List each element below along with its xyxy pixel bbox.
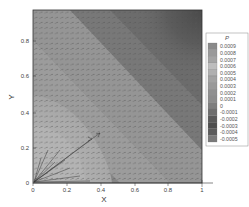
x-axis-label: X: [101, 195, 107, 204]
legend-label: 0.0006: [220, 63, 236, 69]
legend-swatch: [208, 83, 217, 90]
y-tick-0.4: 0.4: [21, 110, 30, 116]
legend-label: -0.0004: [220, 129, 238, 135]
y-tick-0.6: 0.6: [21, 73, 30, 79]
legend-label: 0.0004: [220, 76, 236, 82]
legend-swatch: [208, 109, 217, 116]
legend-swatch: [208, 76, 217, 83]
plot-area: [33, 10, 202, 183]
x-tick-0: 0: [31, 187, 35, 193]
legend-swatch: [208, 50, 217, 57]
legend-label: -0.0005: [220, 136, 238, 142]
legend-swatch: [208, 43, 217, 50]
y-tick-0: 0: [26, 180, 30, 186]
legend-swatch: [208, 102, 217, 109]
y-tick-0.8: 0.8: [21, 38, 30, 44]
legend-label: -0.0001: [220, 109, 238, 115]
legend-label: 0.0007: [220, 57, 236, 63]
legend-swatch: [208, 89, 217, 96]
x-tick-0.6: 0.6: [131, 187, 140, 193]
legend-label: -0.0002: [220, 116, 238, 122]
legend-label: 0.0001: [220, 96, 236, 102]
y-axis: 0 0.2 0.4 0.6 0.8 Y: [7, 38, 36, 186]
legend-swatch: [208, 56, 217, 63]
legend-swatch: [208, 96, 217, 103]
contour-plot-figure: 0 0.2 0.4 0.6 0.8 1 X 0 0.2 0.4 0.6 0.8 …: [0, 0, 249, 207]
x-axis: 0 0.2 0.4 0.6 0.8 1 X: [31, 180, 204, 204]
legend-label: 0.0008: [220, 50, 236, 56]
legend-swatch: [208, 129, 217, 136]
legend-swatch: [208, 116, 217, 123]
legend-title: P: [225, 35, 229, 41]
legend-label: 0.0003: [220, 83, 236, 89]
x-tick-1: 1: [200, 187, 204, 193]
y-tick-0.2: 0.2: [21, 145, 30, 151]
legend-label: -0.0003: [220, 123, 238, 129]
legend-label: 0.0005: [220, 70, 236, 76]
legend-label: 0.0009: [220, 43, 236, 49]
colorbar-legend: P 0.00090.00080.00070.00060.00050.00040.…: [206, 33, 248, 146]
x-tick-0.2: 0.2: [63, 187, 72, 193]
x-tick-0.4: 0.4: [97, 187, 106, 193]
y-axis-label: Y: [7, 94, 16, 100]
x-tick-0.8: 0.8: [164, 187, 173, 193]
legend-swatch: [208, 63, 217, 70]
legend-swatch: [208, 122, 217, 129]
legend-label: 0.0002: [220, 90, 236, 96]
legend-label: 0: [220, 103, 223, 109]
legend-swatch: [208, 69, 217, 76]
legend-swatch: [208, 135, 217, 142]
